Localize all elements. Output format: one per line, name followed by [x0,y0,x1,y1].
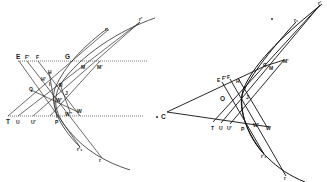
label-W-prime: W' [56,97,62,103]
label-r-prime: r' [139,16,142,22]
label-M-prime: M' [283,58,288,64]
label-C: C [161,113,166,120]
label-J: J [65,90,68,96]
label-R: R [59,82,63,88]
label-W: W [77,108,82,114]
geometry-diagram: E F' F G M M' H H' I R Q J W' W'' W T U … [0,0,327,182]
trajectory-curve [56,18,155,170]
right-figure: C E F' F G M M' H O J T U U' P W' W r₁ r… [161,0,322,182]
label-H-prime: H' [41,76,46,82]
label-G: G [263,62,267,68]
label-J: J [246,94,249,100]
label-F: F [227,74,230,80]
label-P: P [241,126,245,132]
label-r-prime1: r'₁ [261,153,266,159]
label-r: r [99,157,101,163]
line-T-r1 [8,30,108,116]
label-r: r [284,175,286,181]
label-M: M [81,64,85,70]
line-F-W [38,61,80,116]
label-r1: r₁ [294,17,298,23]
label-U-prime: U' [31,119,36,125]
label-F-prime: F' [25,54,29,60]
label-r-prime1: r'₁ [77,146,82,152]
stray-dot [156,116,158,118]
label-U: U [219,125,223,131]
label-Q: Q [29,86,33,92]
left-figure: E F' F G M M' H H' I R Q J W' W'' W T U … [6,16,158,170]
label-M-prime: M' [97,64,102,70]
label-O: O [220,95,225,102]
label-E: E [217,77,221,83]
label-E: E [16,53,21,60]
label-T: T [211,125,214,131]
label-r-prime: r' [318,0,321,6]
label-W-prime: W' [253,122,259,128]
label-F: F [36,54,39,60]
line-C-E [167,66,265,112]
label-F-prime: F' [222,75,226,81]
inner-curve-right [241,22,296,154]
line-Fprime-r [27,61,102,158]
line-U-rprime [18,22,140,116]
label-W-dprime: W'' [65,111,72,117]
line-H-P [49,72,57,118]
label-U-prime: U' [227,125,232,131]
label-M: M [269,65,273,71]
label-T: T [6,118,10,125]
stray-dot [271,18,273,20]
trajectory-curve-right [242,4,322,182]
label-H: H [236,78,240,84]
label-U: U [16,119,20,125]
label-P: P [55,119,59,125]
label-r1: r₁ [105,26,109,32]
label-H: H [48,69,52,75]
line-P-Mprime [50,61,100,116]
label-W: W [266,125,271,131]
label-G: G [65,53,70,60]
